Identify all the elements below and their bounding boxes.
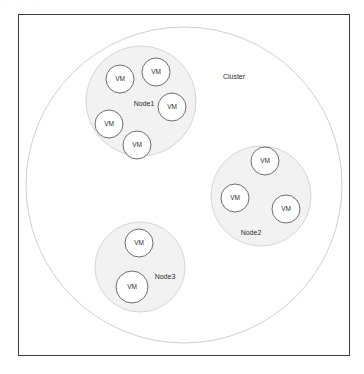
- vm-label: VM: [104, 120, 114, 127]
- vm-label: VM: [132, 141, 142, 148]
- node-label-node1: Node1: [134, 100, 155, 107]
- vm-label: VM: [281, 205, 291, 212]
- vm-label: VM: [115, 75, 125, 82]
- cluster-label: Cluster: [223, 73, 246, 80]
- vm-label: VM: [260, 157, 270, 164]
- vm-label: VM: [127, 283, 137, 290]
- cluster-diagram: Node1VMVMVMVMVMNode2VMVMVMNode3VMVM Clus…: [0, 0, 364, 374]
- node-label-node2: Node2: [241, 229, 262, 236]
- diagram-canvas: . . . Node1VMVMVMVMVMNode2VMVMVMNode3VMV…: [0, 0, 364, 374]
- node-group-node3: Node3VMVM: [95, 222, 185, 312]
- vm-label: VM: [167, 103, 177, 110]
- node-group-node2: Node2VMVMVM: [211, 146, 311, 246]
- node-label-node3: Node3: [155, 273, 176, 280]
- vm-label: VM: [134, 239, 144, 246]
- vm-label: VM: [151, 68, 161, 75]
- vm-label: VM: [230, 194, 240, 201]
